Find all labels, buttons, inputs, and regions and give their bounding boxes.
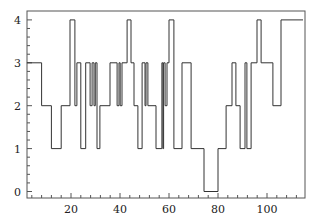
y-tick-label: 1 xyxy=(14,143,21,156)
y-tick-label: 0 xyxy=(14,186,21,199)
step-chart: 01234 20406080100 xyxy=(0,0,319,224)
x-tick-label: 80 xyxy=(211,203,225,216)
y-tick-label: 2 xyxy=(14,100,21,113)
x-tick-label: 100 xyxy=(257,203,278,216)
x-tick-label: 20 xyxy=(64,203,78,216)
plot-border xyxy=(27,11,305,198)
step-series-line xyxy=(27,20,303,192)
x-tick-label: 40 xyxy=(113,203,127,216)
plot-frame xyxy=(27,11,305,198)
y-tick-label: 4 xyxy=(14,14,21,27)
x-tick-label: 60 xyxy=(162,203,176,216)
y-tick-label: 3 xyxy=(14,57,21,70)
y-axis: 01234 xyxy=(14,14,32,199)
x-axis: 20406080100 xyxy=(32,193,297,216)
